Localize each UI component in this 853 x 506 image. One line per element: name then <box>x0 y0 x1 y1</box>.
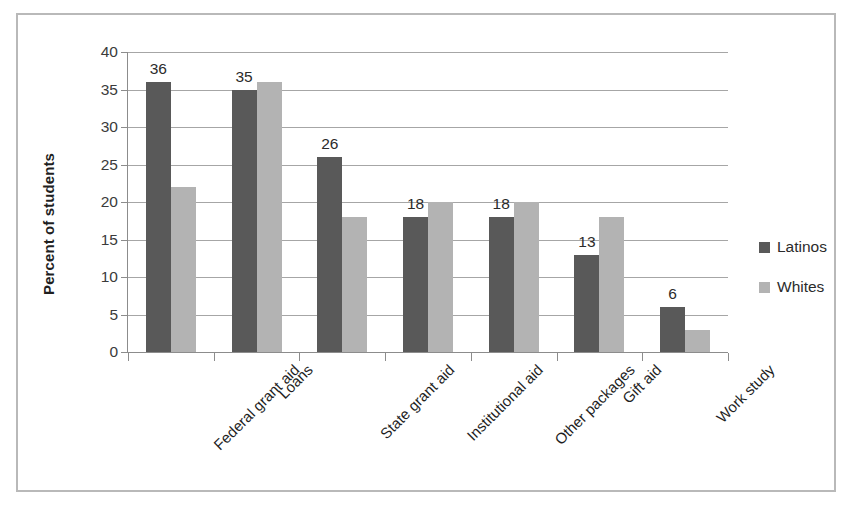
y-tick-mark <box>121 90 128 91</box>
y-tick-label: 25 <box>78 157 118 173</box>
y-tick-mark <box>121 315 128 316</box>
x-label-text: Institutional aid <box>463 361 546 444</box>
bar-latinos <box>317 157 342 352</box>
x-axis-category-labels: Federal grant aidLoansState grant aidIns… <box>128 361 728 491</box>
bar-group <box>317 52 367 352</box>
chart-legend: LatinosWhites <box>759 237 845 317</box>
legend-entry[interactable]: Whites <box>759 277 845 297</box>
x-tick-mark <box>128 353 129 361</box>
legend-swatch-icon <box>759 282 770 293</box>
bar-latinos <box>660 307 685 352</box>
x-axis-label: Work study <box>713 361 778 426</box>
y-tick-mark <box>121 165 128 166</box>
y-tick-label: 15 <box>78 232 118 248</box>
y-tick-mark <box>121 352 128 353</box>
x-axis-label: Other packages <box>551 361 638 448</box>
bar-whites <box>171 187 196 352</box>
y-tick-mark <box>121 127 128 128</box>
bar-latinos <box>489 217 514 352</box>
x-tick-mark <box>728 353 729 361</box>
bar-value-label: 13 <box>562 234 611 250</box>
x-tick-mark <box>642 353 643 361</box>
legend-entry[interactable]: Latinos <box>759 237 845 257</box>
y-tick-mark <box>121 240 128 241</box>
y-tick-label: 20 <box>78 194 118 210</box>
bar-whites <box>342 217 367 352</box>
bar-whites <box>514 202 539 352</box>
x-label-text: Work study <box>713 361 778 426</box>
plot-area: 3635261818136 <box>128 52 728 352</box>
chart-figure: 4035302520151050 Percent of students 363… <box>0 0 853 506</box>
y-axis-tick-labels: 4035302520151050 <box>73 15 118 490</box>
bar-value-label: 6 <box>648 286 697 302</box>
bar-latinos <box>146 82 171 352</box>
bar-latinos <box>232 90 257 353</box>
bar-group <box>232 52 282 352</box>
y-tick-label: 30 <box>78 119 118 135</box>
x-tick-mark <box>214 353 215 361</box>
bar-value-label: 18 <box>477 196 526 212</box>
y-tick-label: 10 <box>78 269 118 285</box>
bar-value-label: 36 <box>134 61 183 77</box>
y-tick-mark <box>121 202 128 203</box>
bar-group <box>660 52 710 352</box>
x-tick-mark <box>557 353 558 361</box>
x-axis-label: Institutional aid <box>463 361 546 444</box>
y-tick-label: 5 <box>78 307 118 323</box>
legend-label: Whites <box>777 279 824 295</box>
x-tick-mark <box>299 353 300 361</box>
y-tick-mark <box>121 52 128 53</box>
y-axis-title: Percent of students <box>40 0 62 224</box>
y-axis-title-text: Percent of students <box>40 74 57 374</box>
bar-value-label: 18 <box>391 196 440 212</box>
bar-group <box>146 52 196 352</box>
bar-value-label: 26 <box>305 136 354 152</box>
x-axis-label: State grant aid <box>377 361 458 442</box>
chart-frame: 4035302520151050 Percent of students 363… <box>16 13 836 492</box>
y-tick-label: 0 <box>78 344 118 360</box>
bar-latinos <box>403 217 428 352</box>
x-tick-mark <box>385 353 386 361</box>
bar-group <box>574 52 624 352</box>
bar-whites <box>428 202 453 352</box>
y-tick-label: 35 <box>78 82 118 98</box>
x-label-text: Other packages <box>551 361 638 448</box>
bar-latinos <box>574 255 599 353</box>
x-axis-baseline <box>128 352 728 353</box>
bar-value-label: 35 <box>220 69 269 85</box>
y-tick-label: 40 <box>78 44 118 60</box>
bar-whites <box>257 82 282 352</box>
y-tick-mark <box>121 277 128 278</box>
bar-whites <box>685 330 710 353</box>
x-tick-mark <box>471 353 472 361</box>
x-label-text: State grant aid <box>377 361 458 442</box>
legend-swatch-icon <box>759 242 770 253</box>
legend-label: Latinos <box>777 239 827 255</box>
